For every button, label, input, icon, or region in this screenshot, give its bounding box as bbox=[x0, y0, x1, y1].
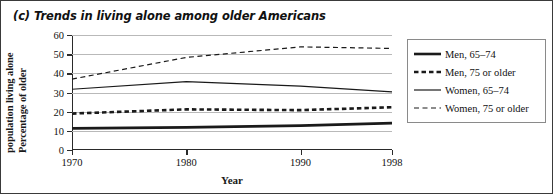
y-tick-label: 60 bbox=[54, 30, 65, 41]
y-tick-label: 0 bbox=[59, 145, 64, 156]
y-tick-label: 50 bbox=[54, 49, 65, 60]
legend-swatch bbox=[414, 66, 441, 78]
x-tick-label: 1970 bbox=[62, 157, 83, 168]
legend-swatch bbox=[414, 84, 441, 96]
legend-swatch bbox=[414, 48, 441, 60]
y-tick-label: 20 bbox=[54, 106, 65, 117]
figure-title: (c) Trends in living alone among older A… bbox=[13, 9, 326, 23]
y-tick-label: 10 bbox=[54, 125, 65, 136]
x-tick-mark bbox=[301, 150, 302, 155]
x-tick-mark bbox=[186, 150, 187, 155]
legend-item: Men, 65–74 bbox=[414, 45, 541, 63]
legend-label: Women, 75 or older bbox=[445, 103, 529, 114]
legend-label: Men, 75 or older bbox=[445, 67, 516, 78]
x-tick-label: 1980 bbox=[176, 157, 197, 168]
x-tick-mark bbox=[392, 150, 393, 155]
series-line bbox=[72, 82, 392, 92]
y-axis-title-line-1: population living alone bbox=[4, 53, 15, 153]
y-tick-label: 40 bbox=[54, 68, 65, 79]
series-lines bbox=[72, 35, 392, 150]
plot-area: 0102030405060 1970198019901998 bbox=[72, 35, 392, 150]
y-axis-title: population living alone Percentage of ol… bbox=[3, 29, 37, 153]
legend-item: Men, 75 or older bbox=[414, 63, 541, 81]
legend-label: Women, 65–74 bbox=[445, 85, 509, 96]
series-line bbox=[72, 123, 392, 128]
legend-item: Women, 75 or older bbox=[414, 99, 541, 117]
legend: Men, 65–74Men, 75 or olderWomen, 65–74Wo… bbox=[407, 39, 546, 123]
y-tick-label: 30 bbox=[54, 87, 65, 98]
x-tick-label: 1990 bbox=[290, 157, 311, 168]
figure-panel: (c) Trends in living alone among older A… bbox=[0, 0, 553, 194]
legend-swatch bbox=[414, 102, 441, 114]
series-line bbox=[72, 107, 392, 113]
x-axis-title: Year bbox=[72, 174, 392, 186]
series-line bbox=[72, 47, 392, 79]
legend-item: Women, 65–74 bbox=[414, 81, 541, 99]
legend-label: Men, 65–74 bbox=[445, 49, 496, 60]
x-tick-mark bbox=[72, 150, 73, 155]
y-axis-title-line-2: Percentage of older bbox=[17, 68, 28, 153]
x-tick-label: 1998 bbox=[382, 157, 403, 168]
